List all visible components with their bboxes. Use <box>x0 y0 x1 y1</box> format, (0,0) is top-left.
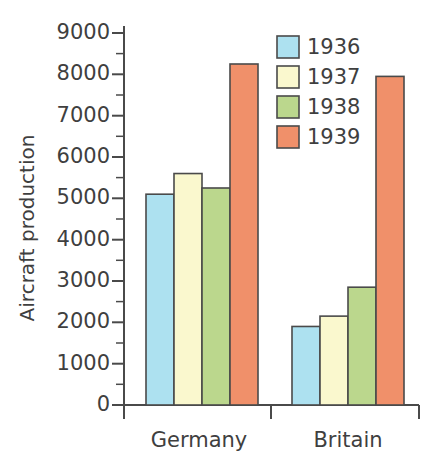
y-tick-label-9000: 9000 <box>57 20 110 44</box>
legend-swatch-1936 <box>277 36 299 58</box>
y-tick-label-5000: 5000 <box>57 185 110 209</box>
y-axis-title: Aircraft production <box>15 135 39 322</box>
bar-germany-1936 <box>146 194 174 405</box>
legend-label-1937: 1937 <box>307 65 360 89</box>
y-tick-label-4000: 4000 <box>57 227 110 251</box>
bar-britain-1936 <box>292 326 320 405</box>
y-axis-minor-ticks <box>116 54 124 385</box>
legend-label-1938: 1938 <box>307 95 360 119</box>
y-tick-label-3000: 3000 <box>57 268 110 292</box>
legend-item-1938: 1938 <box>277 95 360 119</box>
y-tick-label-0: 0 <box>97 392 110 416</box>
bar-group-germany <box>146 64 258 405</box>
legend-label-1939: 1939 <box>307 125 360 149</box>
chart-legend: 1936 1937 1938 1939 <box>277 35 360 149</box>
bar-britain-1937 <box>320 316 348 405</box>
legend-swatch-1938 <box>277 96 299 118</box>
legend-item-1936: 1936 <box>277 35 360 59</box>
bar-chart: 9000 8000 7000 6000 5000 4000 3000 2000 … <box>0 0 437 467</box>
legend-item-1937: 1937 <box>277 65 360 89</box>
y-tick-label-2000: 2000 <box>57 309 110 333</box>
y-tick-label-8000: 8000 <box>57 61 110 85</box>
legend-swatch-1939 <box>277 126 299 148</box>
y-axis-tick-labels: 9000 8000 7000 6000 5000 4000 3000 2000 … <box>57 20 110 416</box>
legend-swatch-1937 <box>277 66 299 88</box>
legend-item-1939: 1939 <box>277 125 360 149</box>
chart-canvas: 9000 8000 7000 6000 5000 4000 3000 2000 … <box>0 0 437 467</box>
x-axis-ticks <box>124 405 419 419</box>
bar-germany-1937 <box>174 174 202 405</box>
bar-germany-1939 <box>230 64 258 405</box>
y-tick-label-7000: 7000 <box>57 103 110 127</box>
x-category-label-britain: Britain <box>313 428 382 452</box>
y-tick-label-6000: 6000 <box>57 144 110 168</box>
legend-label-1936: 1936 <box>307 35 360 59</box>
x-category-label-germany: Germany <box>151 428 248 452</box>
y-tick-label-1000: 1000 <box>57 351 110 375</box>
bar-britain-1939 <box>376 76 404 405</box>
bar-germany-1938 <box>202 188 230 405</box>
bar-britain-1938 <box>348 287 376 405</box>
